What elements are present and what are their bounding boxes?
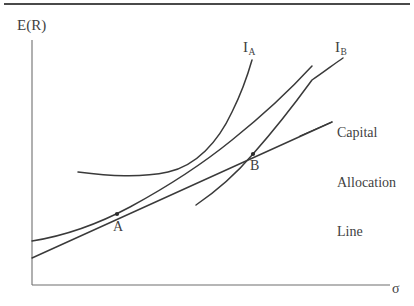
y-axis-label: E(R) [17, 17, 46, 35]
curve-label-ia-base: I [243, 39, 248, 55]
figure-canvas: E(R) σ IA IB Capital Allocation Line A B [0, 0, 414, 306]
x-axis-label: σ [392, 281, 400, 298]
point-label-a: A [113, 219, 123, 236]
indifference-curve-ib [196, 58, 343, 205]
cal-label-leader [300, 122, 332, 136]
curve-label-ib-subscript: B [341, 47, 347, 57]
capital-allocation-line-label: Capital Allocation Line [337, 92, 396, 274]
point-marker-b [251, 152, 255, 156]
cal-label-line-1: Capital [337, 125, 396, 142]
cal-label-line-2: Allocation [337, 175, 396, 192]
cal-label-line-3: Line [337, 224, 396, 241]
curve-label-ia-subscript: A [249, 47, 256, 57]
efficient-frontier-curve [32, 66, 312, 241]
curve-label-ib-base: I [335, 39, 340, 55]
capital-allocation-line [32, 122, 332, 258]
indifference-curve-ia [78, 60, 252, 176]
curve-label-ia: IA [243, 39, 255, 57]
point-marker-a [115, 212, 119, 216]
point-label-b: B [250, 158, 259, 175]
curve-label-ib: IB [335, 39, 346, 57]
